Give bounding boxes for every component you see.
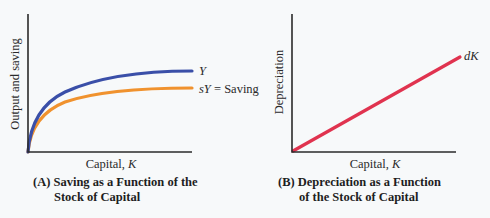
saving-text: = Saving bbox=[211, 82, 260, 96]
panel-a-y-axis-label: Output and saving bbox=[8, 37, 22, 129]
panel-a-axes bbox=[28, 14, 192, 152]
panel-b-caption: (B) Depreciation as a Function of the St… bbox=[278, 175, 441, 205]
x-label-var: K bbox=[391, 157, 401, 171]
panel-a-caption: (A) Saving as a Function of the Stock of… bbox=[33, 175, 198, 205]
x-label-text: Capital, bbox=[86, 157, 128, 171]
panel-a-label-y: Y bbox=[199, 64, 208, 78]
panel-a-label-saving: sY = Saving bbox=[199, 82, 260, 96]
panel-b-caption-line-1: (B) Depreciation as a Function bbox=[278, 175, 441, 190]
panel-a-output-curve bbox=[28, 71, 192, 152]
panel-a-caption-line-1: (A) Saving as a Function of the bbox=[33, 175, 198, 190]
panel-a: Output and saving Y sY = Saving Capital,… bbox=[8, 14, 260, 171]
panel-a-saving-curve bbox=[28, 88, 192, 152]
panel-b-label-dk: dK bbox=[464, 49, 479, 63]
panel-b-depreciation-line bbox=[293, 57, 460, 151]
figure: Output and saving Y sY = Saving Capital,… bbox=[0, 0, 490, 218]
panel-b-axes bbox=[292, 14, 456, 152]
panel-b: Depreciation dK Capital, K bbox=[272, 14, 479, 171]
x-label-var: K bbox=[127, 157, 137, 171]
panel-a-x-axis-label: Capital, K bbox=[86, 157, 137, 171]
panel-b-caption-line-2: of the Stock of Capital bbox=[278, 190, 441, 205]
panel-a-caption-line-2: Stock of Capital bbox=[33, 190, 198, 205]
x-label-text: Capital, bbox=[350, 157, 392, 171]
panel-b-x-axis-label: Capital, K bbox=[350, 157, 401, 171]
panel-b-y-axis-label: Depreciation bbox=[272, 49, 286, 114]
